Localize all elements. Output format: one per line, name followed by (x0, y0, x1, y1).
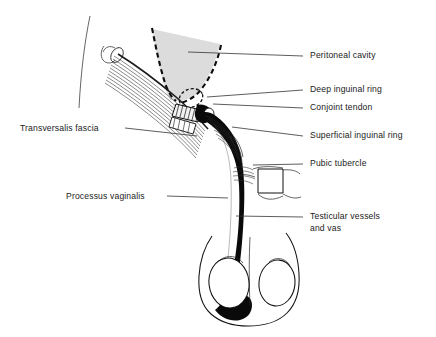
scrotal-septum (249, 237, 250, 306)
label-testicular-vessels-and-vas-line2: and vas (310, 223, 341, 233)
leader-line-superficial-inguinal-ring (232, 127, 303, 136)
leader-line-conjoint-tendon (213, 104, 303, 108)
fascia-attachment-hook (101, 46, 115, 63)
label-pubic-tubercle: Pubic tubercle (310, 158, 367, 168)
label-texts-group: Peritoneal cavityDeep inguinal ringConjo… (20, 50, 403, 233)
label-superficial-inguinal-ring: Superficial inguinal ring (310, 130, 403, 140)
label-deep-inguinal-ring: Deep inguinal ring (310, 84, 382, 94)
inguinal-canal-diagram: Peritoneal cavityDeep inguinal ringConjo… (0, 0, 436, 337)
leader-line-testicular-vessels-and-vas (236, 216, 303, 217)
label-testicular-vessels-and-vas: Testicular vessels (310, 211, 380, 221)
testis-right (257, 258, 298, 308)
label-conjoint-tendon: Conjoint tendon (310, 102, 373, 112)
label-peritoneal-cavity: Peritoneal cavity (310, 50, 376, 60)
leader-line-deep-inguinal-ring (207, 90, 303, 97)
label-processus-vaginalis: Processus vaginalis (66, 191, 145, 201)
leader-line-processus-vaginalis (167, 196, 228, 198)
abdominal-wall-contour (79, 16, 90, 108)
anatomical-figure: Peritoneal cavityDeep inguinal ringConjo… (0, 0, 436, 337)
pubic-tubercle (241, 167, 301, 200)
leader-line-pubic-tubercle (253, 164, 303, 165)
label-transversalis-fascia: Transversalis fascia (20, 123, 99, 133)
